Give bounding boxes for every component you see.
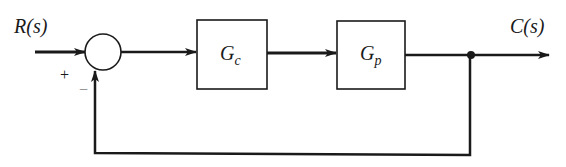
minus-sign: − [79, 81, 88, 98]
plus-sign: + [60, 66, 69, 83]
summing-junction [85, 34, 121, 70]
block-diagram: R(s) + − Gc Gp C(s) [0, 0, 566, 167]
input-label: R(s) [13, 15, 48, 38]
output-label: C(s) [510, 15, 545, 38]
controller-block: Gc [197, 20, 267, 89]
plant-block: Gp [337, 21, 405, 89]
feedback-path [95, 55, 470, 155]
